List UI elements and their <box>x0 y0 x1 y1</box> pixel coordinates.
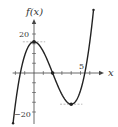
y-axis-arrow-icon <box>32 19 36 24</box>
local-max-dot <box>32 40 36 44</box>
local-min-dot <box>69 102 73 106</box>
curve-end-arrow-icon <box>12 122 14 124</box>
x-axis-label: x <box>108 67 114 78</box>
x-tick-label-5: 5 <box>79 62 84 71</box>
y-tick-label-neg20: −20 <box>14 110 31 119</box>
x-axis-arrow-icon <box>99 71 104 75</box>
function-graph: f(x) x 20 −20 5 <box>0 0 118 127</box>
y-axis-label: f(x) <box>25 6 43 17</box>
x-intercept-dot <box>51 71 55 75</box>
curve-end-arrow-icon <box>92 9 94 11</box>
y-tick-label-20: 20 <box>19 30 29 39</box>
